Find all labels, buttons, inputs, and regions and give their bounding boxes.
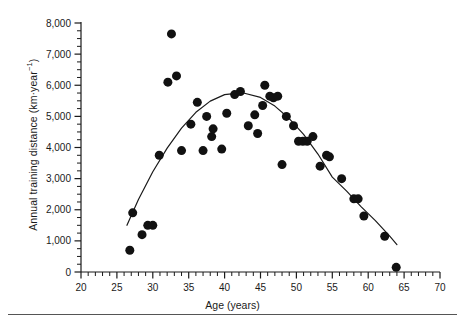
data-point xyxy=(380,232,389,241)
y-axis-ticks: 01,0002,0003,0004,0005,0006,0007,0008,00… xyxy=(46,18,81,278)
data-point xyxy=(148,221,157,230)
y-axis-label-exponent: −1 xyxy=(25,62,34,71)
data-point xyxy=(217,145,226,154)
data-point xyxy=(138,230,147,239)
data-point xyxy=(316,162,325,171)
data-point xyxy=(222,109,231,118)
data-point xyxy=(236,87,245,96)
data-point xyxy=(392,263,401,272)
x-tick-label: 20 xyxy=(75,282,87,293)
data-point xyxy=(209,124,218,133)
y-tick-label: 0 xyxy=(65,267,71,278)
data-point xyxy=(125,246,134,255)
data-point xyxy=(167,29,176,38)
scatter-plot-svg: 202530354045505560657001,0002,0003,0004,… xyxy=(0,0,465,325)
x-tick-label: 70 xyxy=(434,282,446,293)
y-tick-label: 3,000 xyxy=(46,173,71,184)
y-tick-label: 8,000 xyxy=(46,18,71,29)
x-tick-label: 25 xyxy=(111,282,123,293)
data-point-group xyxy=(125,29,400,271)
data-point xyxy=(253,129,262,138)
fit-curve-line xyxy=(127,93,397,245)
data-point xyxy=(289,121,298,130)
x-axis-ticks: 2025303540455055606570 xyxy=(75,272,446,293)
data-point xyxy=(193,98,202,107)
data-point xyxy=(260,81,269,90)
data-point xyxy=(244,121,253,130)
data-point xyxy=(199,146,208,155)
x-axis-label: Age (years) xyxy=(0,299,465,311)
y-tick-label: 6,000 xyxy=(46,80,71,91)
x-tick-label: 40 xyxy=(219,282,231,293)
x-tick-label: 55 xyxy=(327,282,339,293)
data-point xyxy=(163,78,172,87)
data-point xyxy=(273,92,282,101)
data-point xyxy=(308,132,317,141)
data-point xyxy=(207,132,216,141)
data-point xyxy=(258,101,267,110)
x-tick-label: 30 xyxy=(147,282,159,293)
caption-divider-rule xyxy=(8,314,457,315)
data-point xyxy=(359,211,368,220)
data-point xyxy=(337,174,346,183)
data-point xyxy=(325,152,334,161)
y-tick-label: 4,000 xyxy=(46,142,71,153)
x-tick-label: 65 xyxy=(399,282,411,293)
data-point xyxy=(354,194,363,203)
y-axis-label: Annual training distance (km·year−1) xyxy=(25,30,39,260)
data-point xyxy=(172,71,181,80)
y-tick-label: 5,000 xyxy=(46,111,71,122)
y-tick-label: 1,000 xyxy=(46,235,71,246)
y-tick-label: 2,000 xyxy=(46,204,71,215)
data-point xyxy=(202,112,211,121)
data-point xyxy=(278,160,287,169)
x-tick-label: 50 xyxy=(291,282,303,293)
x-tick-label: 35 xyxy=(183,282,195,293)
data-point xyxy=(177,146,186,155)
y-axis-label-text: Annual training distance (km·year xyxy=(27,71,39,231)
y-tick-label: 7,000 xyxy=(46,49,71,60)
y-axis-label-paren: ) xyxy=(27,59,39,63)
data-point xyxy=(128,208,137,217)
data-point xyxy=(155,151,164,160)
data-point xyxy=(186,120,195,129)
x-tick-label: 60 xyxy=(363,282,375,293)
x-tick-label: 45 xyxy=(255,282,267,293)
data-point xyxy=(250,110,259,119)
figure-panel: Annual training distance (km·year−1) 202… xyxy=(0,0,465,325)
data-point xyxy=(282,112,291,121)
